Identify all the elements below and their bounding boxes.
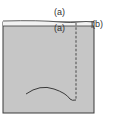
label-top-a: (a) [54, 8, 65, 17]
gray-panel [3, 22, 94, 113]
label-inner-a: (a) [54, 24, 65, 33]
label-right-b: (b) [92, 20, 103, 29]
